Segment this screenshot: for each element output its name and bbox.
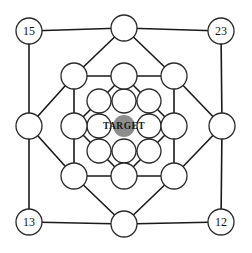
node-third-bottom-right[interactable]: [137, 139, 161, 163]
node-third-bottom-center[interactable]: [112, 139, 136, 163]
puzzle-figure: 15 23 12 13 TARGET: [0, 0, 252, 253]
label-outer-bottom-left: 13: [23, 215, 35, 229]
node-third-bottom-left[interactable]: [87, 139, 111, 163]
node-second-bottom-left[interactable]: [61, 163, 87, 189]
node-third-top-left[interactable]: [87, 89, 111, 113]
edge-outer-top-center-to-top-right: [124, 28, 221, 31]
edge-outer-top-right-to-middle-right: [221, 31, 222, 126]
edge-outer-middle-right-to-bottom-right: [221, 126, 222, 222]
target-label: TARGET: [103, 121, 145, 131]
node-second-middle-right[interactable]: [161, 113, 187, 139]
node-second-top-left[interactable]: [61, 63, 87, 89]
graph-canvas: 15 23 12 13 TARGET: [0, 0, 252, 253]
target-group: TARGET: [103, 115, 145, 137]
node-second-top-center[interactable]: [111, 63, 137, 89]
label-outer-top-left: 15: [23, 24, 35, 38]
node-outer-middle-left[interactable]: [16, 113, 42, 139]
node-third-top-center[interactable]: [112, 89, 136, 113]
label-outer-top-right: 23: [215, 24, 227, 38]
node-outer-top-center[interactable]: [111, 15, 137, 41]
edge-outer-bottom-right-to-bottom-center: [124, 222, 221, 224]
node-outer-bottom-center[interactable]: [111, 211, 137, 237]
node-second-middle-left[interactable]: [61, 113, 87, 139]
node-second-bottom-center[interactable]: [111, 163, 137, 189]
label-outer-bottom-right: 12: [215, 215, 227, 229]
node-second-bottom-right[interactable]: [161, 163, 187, 189]
edge-outer-top-left-to-top-center: [29, 28, 124, 31]
node-third-top-right[interactable]: [137, 89, 161, 113]
node-second-top-right[interactable]: [161, 63, 187, 89]
edge-outer-bottom-center-to-bottom-left: [29, 222, 124, 224]
node-outer-middle-right[interactable]: [209, 113, 235, 139]
